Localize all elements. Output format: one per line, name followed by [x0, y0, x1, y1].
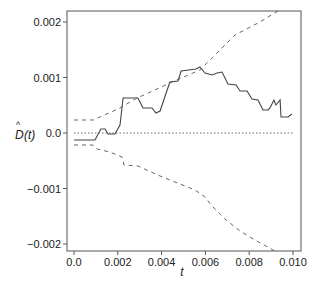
x-axis-ticks: 0.00.0020.0040.0060.0080.010	[66, 251, 306, 268]
plot-frame	[67, 11, 301, 251]
x-axis-label: t	[180, 265, 184, 279]
x-tick-label: 0.0	[66, 256, 81, 268]
lower-bound-line	[74, 145, 276, 252]
chart: 0.0020.0010.0−0.001−0.002 0.00.0020.0040…	[0, 0, 321, 293]
y-tick-label: −0.001	[27, 183, 61, 195]
y-tick-label: 0.0	[46, 127, 61, 139]
y-tick-label: −0.002	[27, 238, 61, 250]
estimate-line	[74, 67, 292, 140]
y-tick-label: 0.001	[33, 72, 61, 84]
x-tick-label: 0.002	[104, 256, 132, 268]
x-tick-label: 0.006	[192, 256, 220, 268]
svg-text:D: D	[15, 128, 24, 142]
y-tick-label: 0.002	[33, 16, 61, 28]
y-axis-label: D ^ (t)	[15, 120, 35, 142]
x-tick-label: 0.004	[148, 256, 176, 268]
svg-text:(t): (t)	[24, 128, 35, 142]
series-layer	[74, 11, 293, 252]
x-tick-label: 0.010	[279, 256, 307, 268]
x-tick-label: 0.008	[235, 256, 263, 268]
upper-bound-line	[74, 11, 278, 120]
